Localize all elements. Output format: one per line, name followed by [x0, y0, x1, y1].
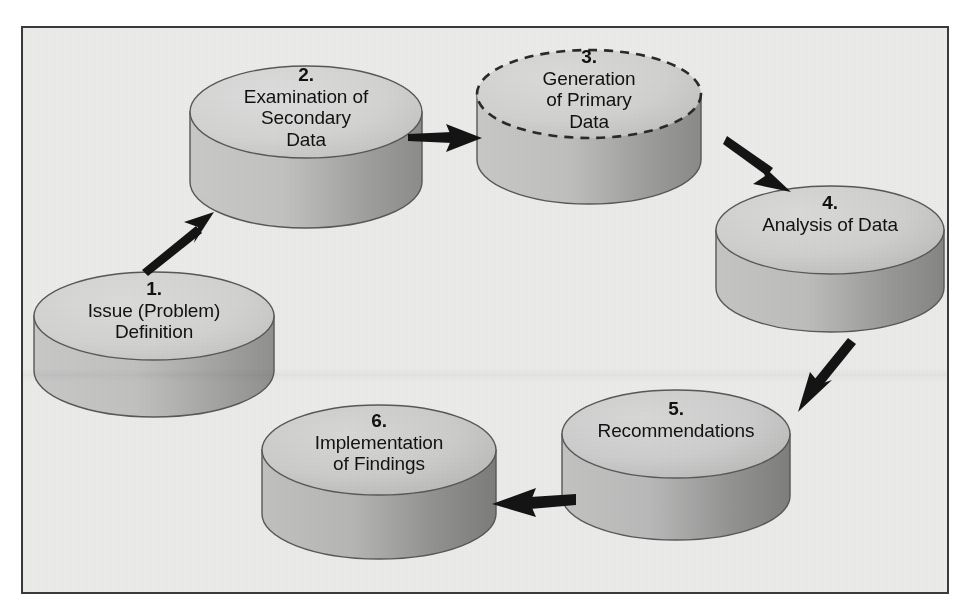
process-step-1[interactable]: 1. Issue (Problem) Definition [31, 270, 277, 420]
step-3-dashed-outline [477, 50, 701, 138]
arrow-step4-to-step5 [788, 342, 866, 418]
process-step-5[interactable]: 5. Recommendations [558, 384, 794, 554]
arrow-step1-to-step2 [136, 206, 226, 276]
process-step-6[interactable]: 6. Implementation of Findings [258, 398, 500, 573]
diagram-frame: 1. Issue (Problem) Definition [21, 26, 949, 594]
arrow-step5-to-step6 [488, 485, 578, 525]
process-step-3[interactable]: 3. Generation of Primary Data [473, 32, 705, 222]
arrow-step3-to-step4 [725, 132, 807, 202]
diagram-canvas: 1. Issue (Problem) Definition [0, 0, 968, 615]
arrow-step2-to-step3 [406, 119, 486, 157]
process-step-4[interactable]: 4. Analysis of Data [712, 178, 948, 343]
